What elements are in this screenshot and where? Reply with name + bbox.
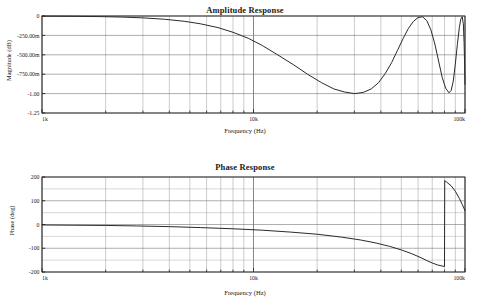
svg-text:-1.00: -1.00 bbox=[27, 91, 39, 97]
svg-text:0: 0 bbox=[37, 222, 40, 228]
svg-text:1k: 1k bbox=[42, 275, 48, 281]
phase-plot-area: 2001000-100-2001k10k100k bbox=[0, 155, 490, 306]
svg-text:10k: 10k bbox=[249, 116, 258, 122]
amplitude-gridlines bbox=[42, 16, 465, 113]
svg-text:-100: -100 bbox=[29, 245, 40, 251]
svg-text:10k: 10k bbox=[249, 275, 258, 281]
svg-text:-250.00m: -250.00m bbox=[17, 33, 40, 39]
amplitude-tick-labels: 0-250.00m-500.00m-750.00m-1.00-1.251k10k… bbox=[17, 13, 465, 121]
svg-text:-1.25: -1.25 bbox=[27, 110, 39, 116]
svg-text:0: 0 bbox=[37, 13, 40, 19]
phase-gridlines bbox=[42, 177, 465, 272]
svg-text:100: 100 bbox=[31, 198, 40, 204]
svg-text:-200: -200 bbox=[29, 269, 40, 275]
phase-tick-labels: 2001000-100-2001k10k100k bbox=[29, 174, 465, 280]
amplitude-response-chart: Amplitude Response Magnitude (dB) Freque… bbox=[0, 0, 490, 150]
svg-text:-500.00m: -500.00m bbox=[17, 52, 40, 58]
svg-text:1k: 1k bbox=[42, 116, 48, 122]
svg-text:100k: 100k bbox=[453, 116, 465, 122]
svg-text:100k: 100k bbox=[453, 275, 465, 281]
amplitude-plot-area: 0-250.00m-500.00m-750.00m-1.00-1.251k10k… bbox=[0, 0, 490, 150]
svg-text:-750.00m: -750.00m bbox=[17, 71, 40, 77]
svg-text:200: 200 bbox=[31, 174, 40, 180]
phase-response-chart: Phase Response Phase (deg) Frequency (Hz… bbox=[0, 155, 490, 306]
bode-plot-figure: Amplitude Response Magnitude (dB) Freque… bbox=[0, 0, 490, 306]
